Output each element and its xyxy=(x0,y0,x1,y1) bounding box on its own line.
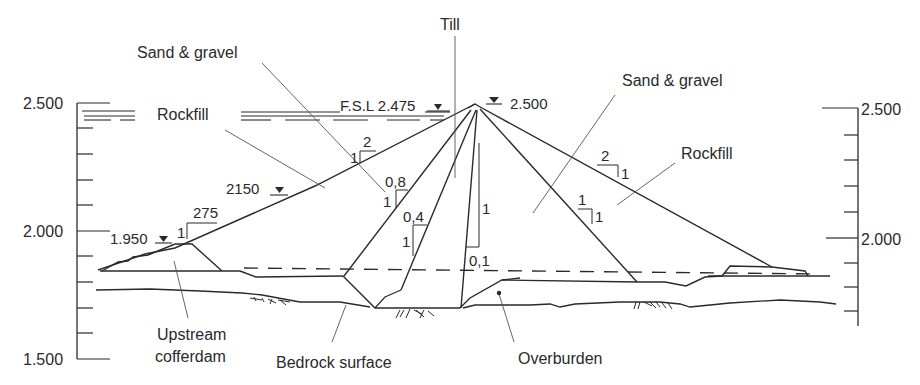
till-label: Till xyxy=(440,16,460,33)
sand-gravel-upstream-label: Sand & gravel xyxy=(137,44,238,61)
right-axis-label-2500: 2.500 xyxy=(861,101,901,118)
cofferdam-elevation-label: 1.950 xyxy=(110,230,148,247)
crest-elevation-label: 2.500 xyxy=(510,95,548,112)
upstream-cofferdam-label-line1: Upstream xyxy=(157,326,226,343)
rockfill-upstream-label: Rockfill xyxy=(157,106,209,123)
fsl-label: F.S.L 2.475 xyxy=(340,97,415,114)
upstream-cofferdam-label-line2: cofferdam xyxy=(155,348,226,365)
crest-triangle-icon xyxy=(489,97,499,103)
sand-gravel-downstream-label: Sand & gravel xyxy=(622,72,723,89)
fsl-triangle-icon xyxy=(434,104,442,110)
slope-filter-outer-run: 0,8 xyxy=(385,173,406,190)
berm-triangle-icon xyxy=(275,187,284,193)
slope-core-run: 0,1 xyxy=(469,252,490,269)
slope-upstream-shell-run: 2 xyxy=(363,133,371,150)
slope-core-rise: 1 xyxy=(482,200,490,217)
slope-downstream-shell-rise: 1 xyxy=(621,165,629,182)
slope-downstream-filter-rise: 1 xyxy=(595,208,603,225)
slope-upstream-lower-rise: 1 xyxy=(177,224,185,241)
slope-downstream-filter-run: 1 xyxy=(578,191,586,208)
left-axis-label-2000: 2.000 xyxy=(23,223,63,240)
left-axis-label-2500: 2.500 xyxy=(23,95,63,112)
berm-elevation-label: 2150 xyxy=(226,180,259,197)
slope-filter-inner-run: 0,4 xyxy=(403,208,424,225)
slope-upstream-shell-rise: 1 xyxy=(350,149,358,166)
slope-downstream-shell-run: 2 xyxy=(601,147,609,164)
slope-upstream-lower-run: 275 xyxy=(193,204,218,221)
cofferdam-triangle-icon xyxy=(159,236,168,242)
downstream-ground-surface xyxy=(502,276,722,286)
rockfill-downstream-label: Rockfill xyxy=(681,145,733,162)
bedrock-surface-line xyxy=(96,289,836,308)
slope-filter-outer-rise: 1 xyxy=(383,193,391,210)
right-elevation-axis: 2.500 2.000 xyxy=(822,101,901,326)
right-axis-label-2000: 2.000 xyxy=(861,231,901,248)
slope-indicators: 2 1 275 1 0,8 1 0,4 1 1 0,1 2 1 1 1 xyxy=(177,133,629,269)
dashed-reference-line xyxy=(244,268,820,274)
dam-cross-section-diagram: 2.500 2.000 1.500 2.500 2.000 xyxy=(0,0,920,385)
slope-filter-inner-rise: 1 xyxy=(402,233,410,250)
overburden-label: Overburden xyxy=(518,350,603,367)
left-elevation-axis: 2.500 2.000 1.500 xyxy=(23,95,110,368)
left-axis-label-1500: 1.500 xyxy=(23,351,63,368)
upstream-cofferdam xyxy=(100,244,343,277)
downstream-cofferdam xyxy=(708,266,830,276)
bedrock-surface-label: Bedrock surface xyxy=(276,354,392,371)
